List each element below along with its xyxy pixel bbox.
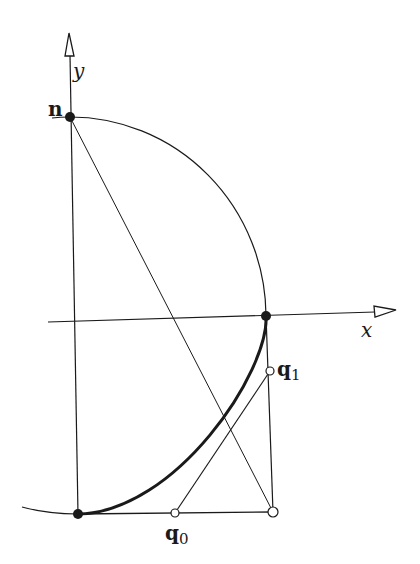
point-q0-label: q0 <box>165 521 189 548</box>
point-bottom-right <box>268 507 278 517</box>
diagram-canvas: y x n q1 q0 <box>0 0 420 564</box>
point-axis-intersection <box>261 311 271 321</box>
point-n-label: n <box>48 97 63 121</box>
x-axis <box>48 306 396 322</box>
right-vertical-line <box>266 315 273 512</box>
x-axis-label: x <box>361 318 372 342</box>
line-n-to-bottom-right <box>70 117 273 512</box>
y-axis <box>65 33 78 514</box>
point-q1 <box>266 367 274 375</box>
point-q1-label: q1 <box>277 357 301 384</box>
point-q0 <box>171 509 179 517</box>
bezier-curve <box>78 315 266 514</box>
line-q0-to-q1 <box>175 371 270 513</box>
point-bottom-left <box>73 509 83 519</box>
lower-circle-arc <box>22 507 78 514</box>
x-axis-arrowhead-icon <box>374 306 396 317</box>
point-n <box>65 112 75 122</box>
y-axis-label: y <box>72 59 85 83</box>
y-axis-arrowhead-icon <box>65 33 74 56</box>
circle-arc <box>70 117 266 315</box>
